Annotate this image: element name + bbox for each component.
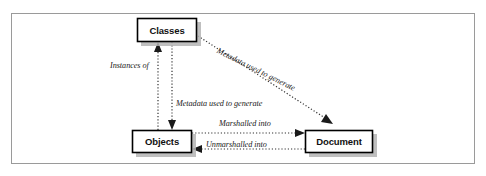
diagram-figure: Classes Objects Document Instances of Me…	[0, 0, 486, 176]
edge-label-marshalled-into: Marshalled into	[219, 120, 271, 128]
edge-label-unmarshalled-into: Unmarshalled into	[206, 141, 267, 149]
node-label-classes: Classes	[137, 26, 197, 36]
edge-label-metadata-to-objects: Metadata used to generate	[176, 100, 262, 108]
node-label-objects: Objects	[132, 137, 192, 147]
node-label-document: Document	[305, 137, 373, 147]
diagram-canvas	[0, 0, 486, 176]
edge-label-instances-of: Instances of	[110, 62, 149, 70]
